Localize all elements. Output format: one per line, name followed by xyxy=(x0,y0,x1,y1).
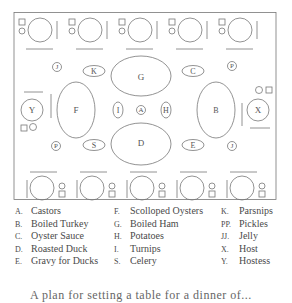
legend-item: X.Host xyxy=(221,243,258,256)
legend-item: C.Oyster Sauce xyxy=(15,230,84,243)
legend-item: F.Scolloped Oysters xyxy=(114,205,203,218)
caption: A plan for setting a table for a dinner … xyxy=(30,288,252,303)
legend-item: D.Roasted Duck xyxy=(15,243,87,256)
legend-item: I.Turnips xyxy=(114,243,161,256)
legend-item: G.Boiled Ham xyxy=(114,218,179,231)
legend-item: B.Boiled Turkey xyxy=(15,218,89,231)
legend-item: K.Parsnips xyxy=(221,205,273,218)
legend-item: S.Celery xyxy=(114,255,157,268)
legend-item: PP.Pickles xyxy=(221,218,268,231)
legend-item: H.Potatoes xyxy=(114,230,164,243)
legend-item: Y.Hostess xyxy=(221,255,270,268)
legend-item: E.Gravy for Ducks xyxy=(15,255,98,268)
legend-item: JJ.Jelly xyxy=(221,230,258,243)
legend-item: A.Castors xyxy=(15,205,61,218)
